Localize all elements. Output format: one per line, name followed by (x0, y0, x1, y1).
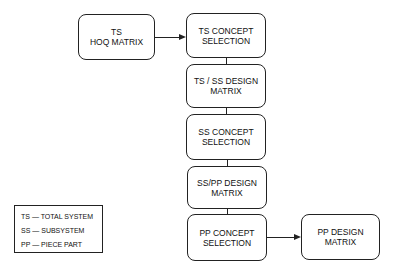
legend: TS — TOTAL SYSTEM SS — SUBSYSTEM PP — PI… (14, 205, 103, 253)
node-label-line: TS (111, 27, 122, 37)
node-pp-concept-selection: PP CONCEPT SELECTION (187, 214, 267, 261)
node-label-line: MATRIX (210, 86, 241, 96)
node-label-line: SS/PP DESIGN (197, 178, 257, 188)
node-ts-hoq-matrix: TS HOQ MATRIX (78, 14, 155, 60)
edge-hoq-to-ts-concept (155, 37, 180, 38)
node-label-line: MATRIX (325, 237, 356, 247)
legend-item-ss: SS — SUBSYSTEM (21, 224, 96, 238)
node-label-line: TS / SS DESIGN (194, 76, 258, 86)
node-label-line: TS CONCEPT (199, 26, 254, 36)
node-ts-ss-design-matrix: TS / SS DESIGN MATRIX (186, 64, 266, 108)
node-ss-concept-selection: SS CONCEPT SELECTION (186, 114, 266, 160)
node-label-line: PP DESIGN (317, 227, 363, 237)
arrowhead-icon (179, 34, 186, 40)
node-ss-pp-design-matrix: SS/PP DESIGN MATRIX (187, 166, 267, 209)
node-label-line: MATRIX (211, 188, 242, 198)
node-label-line: SS CONCEPT (198, 127, 253, 137)
legend-item-pp: PP — PIECE PART (21, 238, 96, 252)
node-label-line: SELECTION (202, 36, 250, 46)
legend-item-ts: TS — TOTAL SYSTEM (21, 210, 96, 224)
node-label-line: SELECTION (202, 137, 250, 147)
arrowhead-icon (294, 234, 301, 240)
node-label-line: PP CONCEPT (199, 228, 254, 238)
node-label-line: SELECTION (203, 238, 251, 248)
node-ts-concept-selection: TS CONCEPT SELECTION (186, 13, 266, 58)
node-label-line: HOQ MATRIX (90, 37, 143, 47)
node-pp-design-matrix: PP DESIGN MATRIX (301, 214, 380, 260)
edge-pp-concept-to-pp-design (267, 237, 295, 238)
